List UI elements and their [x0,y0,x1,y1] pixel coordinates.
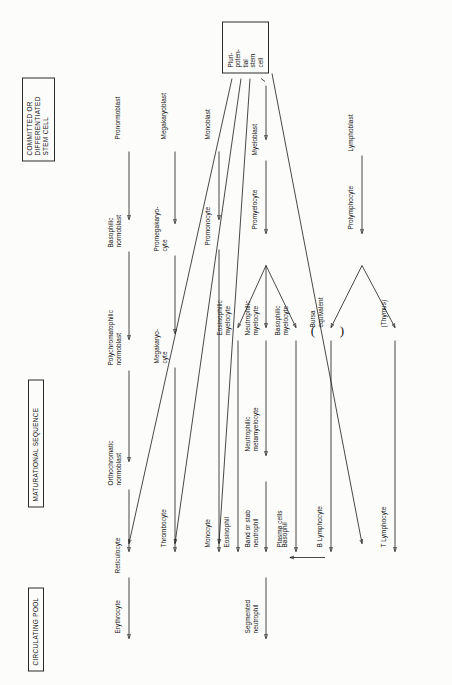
node-orthochromatic-normoblast: Orthochromatic normoblast [107,405,122,485]
node-eosinophilic-myelocyte: Eosinophilic myelocyte [216,265,231,335]
node-reticulocyte: Reticulocyte [114,513,122,573]
hematopoiesis-diagram-page: CIRCULATING POOL MATURATIONAL SEQUENCE C… [0,0,452,685]
node-monocyte: Monocyte [204,487,212,547]
node-thrombocyte: Thrombocyte [160,485,168,547]
node-t-lymphocyte: T Lymphocyte [380,483,388,547]
node-band-or-stab-neutrophil: Band or stab neutrophil [244,481,259,547]
node-bursa-equivalent: Bursa equivalent [309,263,324,327]
node-pronormoblast: Pronormoblast [114,69,122,139]
node-plasma-cells: Plasma cells [276,483,284,547]
node-promonocyte: Promonocyte [204,175,212,245]
node-neutrophilic-metamyelocyte: Neutrophilic metamyelocyte [244,375,259,451]
node-myeloblast: Myeloblast [251,85,259,155]
node-promegakaryocyte: Promegakaryo- cyte [153,181,168,251]
header-circulating-pool: CIRCULATING POOL [28,587,44,671]
node-prolymphocyte: Prolymphocyte [347,159,355,229]
diagram-canvas: CIRCULATING POOL MATURATIONAL SEQUENCE C… [0,0,452,685]
stem-cell-box: Pluri- poten- tial stem cell [222,21,269,73]
node-monoblast: Monoblast [204,69,212,139]
node-lymphoblast: Lymphoblast [347,81,355,151]
header-committed-stem-cell: COMMITTED OR DIFFERENTIATED STEM CELL [22,77,55,161]
node-basophilic-normoblast: Basophilic normoblast [107,177,122,247]
connector-lines [0,0,452,685]
node-b-lymphocyte: B Lymphocyte [316,483,324,547]
node-megakaryocyte: Megakaryo- cyte [153,301,168,363]
node-polychromatophilic-normoblast: Polychromatophilic normoblast [107,281,122,365]
node-erythrocyte: Erythrocyte [114,573,122,633]
node-promyelocyte: Promyelocyte [251,159,259,229]
node-thymus: (Thymus) [380,263,388,327]
header-maturational-sequence: MATURATIONAL SEQUENCE [28,379,44,507]
node-basophilic-myelocyte: Basophilic myelocyte [274,265,289,335]
node-eosinophil: Eosinophil [223,485,231,547]
node-segmented-neutrophil: Segmented neutrophil [244,567,259,633]
node-neutrophilic-myelocyte: Neutrophilic myelocyte [244,265,259,335]
bursa-open-paren-icon: ( [311,323,315,339]
bursa-close-paren-icon: ) [340,323,344,339]
node-megakaryoblast: Megakaryoblast [160,69,168,139]
